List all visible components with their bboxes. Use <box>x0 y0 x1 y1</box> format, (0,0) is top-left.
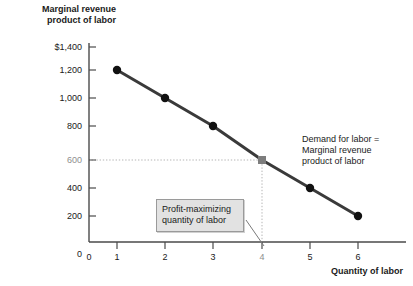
y-tick-label-0: 0 <box>30 250 82 259</box>
y-tick-label-1200: 1,200 <box>30 66 82 75</box>
demand-annotation-line-1: Demand for labor = <box>302 134 379 144</box>
x-tick-label-5: 5 <box>300 253 320 262</box>
y-tick-label-1000: 1,000 <box>30 94 82 103</box>
demand-annotation-line-3: product of labor <box>302 156 365 166</box>
y-tick-marks <box>89 47 96 216</box>
y-tick-label-1400: $1,400 <box>30 43 82 52</box>
x-axis-title: Quantity of labor <box>253 266 403 277</box>
data-point-2 <box>161 94 169 102</box>
y-axis-title: Marginal revenue product of labor <box>8 4 116 26</box>
y-tick-label-200: 200 <box>30 212 82 221</box>
x-tick-label-0: 0 <box>79 253 99 262</box>
data-point-1 <box>113 66 121 74</box>
data-point-6 <box>354 212 362 220</box>
x-tick-label-2: 2 <box>155 253 175 262</box>
x-tick-label-6: 6 <box>348 253 368 262</box>
y-tick-label-800: 800 <box>30 122 82 131</box>
x-tick-label-1: 1 <box>107 253 127 262</box>
data-point-5 <box>306 184 314 192</box>
demand-annotation-line-2: Marginal revenue <box>302 145 372 155</box>
callout-label: Profit-maximizing quantity of labor <box>162 204 238 226</box>
y-tick-label-600: 600 <box>30 156 82 165</box>
chart-figure: Marginal revenue product of labor $1,400… <box>0 0 413 286</box>
demand-curve-annotation: Demand for labor = Marginal revenue prod… <box>302 134 410 167</box>
x-tick-marks <box>117 242 358 249</box>
data-point-4-highlight <box>258 156 266 164</box>
x-tick-label-4: 4 <box>252 253 272 262</box>
profit-maximizing-callout: Profit-maximizing quantity of labor <box>156 199 244 232</box>
x-tick-label-3: 3 <box>203 253 223 262</box>
y-tick-label-400: 400 <box>30 184 82 193</box>
data-point-3 <box>209 122 217 130</box>
